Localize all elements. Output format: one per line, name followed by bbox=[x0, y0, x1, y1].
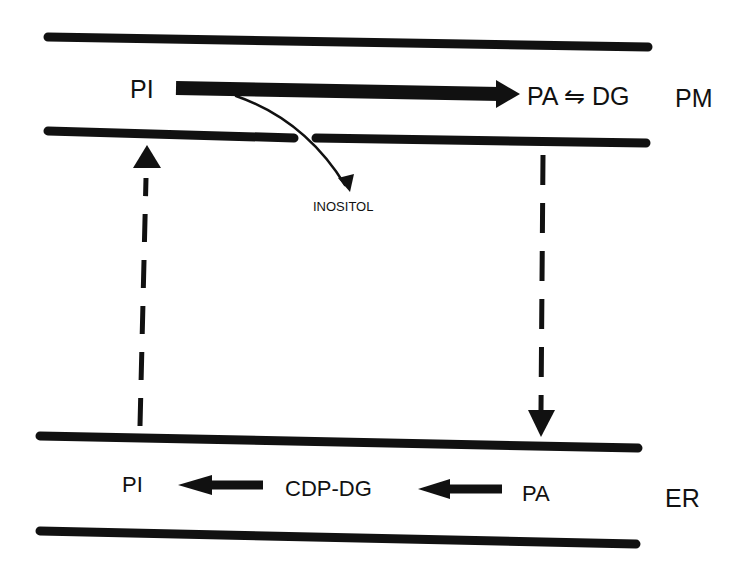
er-pa-label: PA bbox=[522, 483, 550, 505]
down-arrowhead bbox=[528, 410, 555, 437]
er-lower-membrane bbox=[40, 531, 636, 544]
pm-pa-dg-label: PA ⇋ DG bbox=[527, 84, 630, 109]
er-upper-membrane bbox=[40, 436, 638, 448]
pi-to-pa-arrow-shaft bbox=[176, 88, 500, 94]
er-compartment-label: ER bbox=[665, 486, 700, 511]
pm-outer-membrane bbox=[48, 37, 648, 47]
er-cdp-dg-label: CDP-DG bbox=[285, 478, 372, 500]
er-to-pm-dashed-line bbox=[140, 178, 146, 426]
pm-pi-label: PI bbox=[130, 77, 154, 102]
pm-compartment-label: PM bbox=[675, 86, 713, 111]
pm-to-er-dashed-line bbox=[541, 155, 543, 410]
up-arrowhead bbox=[133, 145, 161, 168]
cdp-to-pi-arrowhead bbox=[178, 475, 212, 495]
pi-to-pa-arrowhead bbox=[496, 80, 520, 108]
inositol-label: INOSITOL bbox=[313, 200, 373, 213]
diagram-canvas bbox=[0, 0, 756, 570]
pm-inner-membrane-right bbox=[316, 138, 646, 143]
pa-to-cdp-arrowhead bbox=[418, 479, 450, 499]
pm-inner-membrane-left bbox=[48, 131, 294, 138]
er-pi-label: PI bbox=[122, 474, 143, 496]
